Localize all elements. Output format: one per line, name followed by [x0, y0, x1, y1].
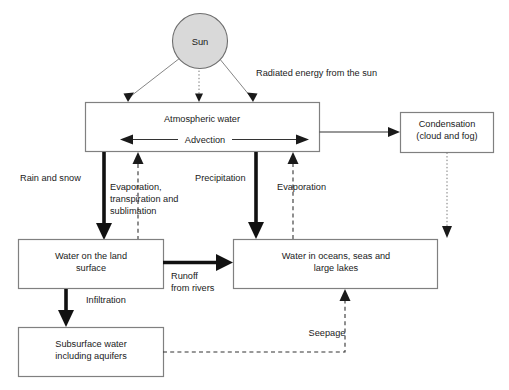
evaporation-transpiration-arrowhead — [133, 152, 144, 164]
subsurface-water-label-line1: Subsurface water — [55, 339, 127, 349]
infiltration-arrowhead — [58, 310, 74, 327]
infiltration-label: Infiltration — [86, 295, 126, 305]
evaporation-transpiration-label-line2: transpiration and — [110, 194, 178, 204]
runoff-label-line2: from rivers — [171, 283, 215, 293]
evaporation-arrowhead — [288, 152, 299, 164]
runoff-label-line1: Runoff — [171, 271, 198, 281]
sun-ray-right-arrowhead — [247, 93, 258, 103]
evaporation-edge — [288, 152, 299, 239]
precipitation-label: Precipitation — [195, 173, 246, 183]
sun-ray-left-arrowhead — [124, 93, 135, 103]
atmospheric-to-condensation-edge — [320, 127, 401, 137]
radiated-energy-label: Radiated energy from the sun — [256, 68, 377, 78]
water-on-land-label-line1: Water on the land — [55, 251, 127, 261]
sun-ray-right — [219, 58, 250, 96]
evaporation-label: Evaporation — [277, 182, 326, 192]
seepage-edge — [163, 289, 351, 352]
sun-ray-middle-arrowhead — [195, 94, 203, 103]
condensation-to-oceans-edge — [442, 153, 452, 239]
condensation-to-oceans-arrowhead — [442, 226, 452, 238]
rain-and-snow-label: Rain and snow — [20, 173, 81, 183]
water-in-oceans-label-line2: large lakes — [314, 263, 359, 273]
subsurface-water-label-line2: including aquifers — [55, 351, 127, 361]
seepage-path — [163, 300, 345, 352]
water-on-land-label-line2: surface — [76, 263, 106, 273]
precipitation-arrowhead — [248, 222, 264, 239]
precipitation-edge — [248, 152, 264, 239]
sun-ray-left — [131, 58, 180, 96]
water-cycle-diagram: Sun Radiated energy from the sun Atmosph… — [0, 0, 509, 390]
condensation-label-line2: (cloud and fog) — [416, 131, 477, 141]
water-in-oceans-label-line1: Water in oceans, seas and — [282, 251, 390, 261]
advection-label: Advection — [185, 135, 225, 145]
atmospheric-water-label: Atmospheric water — [164, 114, 240, 124]
seepage-arrowhead — [340, 289, 351, 301]
diagram-canvas: Sun Radiated energy from the sun Atmosph… — [0, 0, 509, 390]
evaporation-transpiration-label-line3: sublimation — [110, 206, 156, 216]
infiltration-edge — [58, 289, 74, 327]
runoff-arrowhead — [216, 254, 233, 271]
atmospheric-to-condensation-arrowhead — [388, 127, 400, 137]
seepage-label: Seepage — [309, 328, 346, 338]
rain-and-snow-arrowhead — [96, 223, 112, 240]
runoff-from-rivers-edge — [163, 254, 233, 271]
sun-label: Sun — [192, 36, 209, 47]
condensation-label-line1: Condensation — [419, 119, 476, 129]
evaporation-transpiration-label-line1: Evaporation, — [110, 182, 162, 192]
